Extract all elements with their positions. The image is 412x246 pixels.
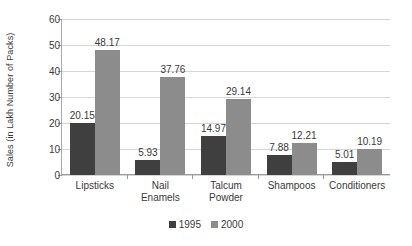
bar-value-label: 7.88 [269, 142, 288, 153]
bar-group-bars: 5.0110.19 [324, 19, 390, 175]
legend-item-2000[interactable]: 2000 [211, 219, 243, 230]
bar-value-label: 20.15 [70, 110, 95, 121]
x-category-label: Shampoos [259, 180, 325, 204]
legend-label: 1995 [179, 219, 201, 230]
bar-1995[interactable]: 7.88 [267, 155, 292, 175]
x-axis-category-labels: LipsticksNailEnamelsTalcumPowderShampoos… [62, 180, 390, 204]
plot-area: 0102030405060 20.1548.175.9337.7614.9729… [62, 19, 390, 175]
bar-1995[interactable]: 5.93 [135, 160, 160, 175]
bar-group-bars: 14.9729.14 [193, 19, 259, 175]
y-tick-label: 60 [20, 14, 60, 25]
x-category-label-line: Conditioners [324, 180, 390, 192]
bar-value-label: 48.17 [95, 37, 120, 48]
bar-group: 7.8812.21 [259, 19, 325, 175]
bar-group-bars: 5.9337.76 [128, 19, 194, 175]
bar-1995[interactable]: 14.97 [201, 136, 226, 175]
x-category-label-line: Lipsticks [62, 180, 128, 192]
bar-value-label: 10.19 [357, 136, 382, 147]
x-category-label: Lipsticks [62, 180, 128, 204]
y-tick-label: 20 [20, 118, 60, 129]
y-tick-label: 10 [20, 144, 60, 155]
y-tick-label: 50 [20, 40, 60, 51]
bar-group: 5.9337.76 [128, 19, 194, 175]
y-axis-title-text: Sales (in Lakh Number of Packs) [5, 33, 15, 168]
y-tick-label: 0 [20, 170, 60, 181]
bar-2000[interactable]: 10.19 [357, 149, 382, 175]
bar-group: 20.1548.17 [62, 19, 128, 175]
x-category-label-line: Powder [193, 192, 259, 204]
x-tick-mark [127, 175, 128, 179]
gridline [62, 175, 390, 176]
y-tick-label: 40 [20, 66, 60, 77]
bar-2000[interactable]: 29.14 [226, 99, 251, 175]
bar-2000[interactable]: 37.76 [160, 77, 185, 175]
bar-group: 5.0110.19 [324, 19, 390, 175]
legend-swatch-icon [169, 221, 176, 228]
x-tick-mark [192, 175, 193, 179]
bar-value-label: 37.76 [160, 64, 185, 75]
bar-1995[interactable]: 5.01 [332, 162, 357, 175]
x-category-label-line: Enamels [128, 192, 194, 204]
y-tick-label: 30 [20, 92, 60, 103]
chart-legend: 19952000 [0, 219, 412, 230]
bar-group-bars: 7.8812.21 [259, 19, 325, 175]
x-category-label-line: Nail [128, 180, 194, 192]
y-axis-title: Sales (in Lakh Number of Packs) [0, 0, 20, 200]
bar-group: 14.9729.14 [193, 19, 259, 175]
bar-value-label: 14.97 [201, 123, 226, 134]
x-tick-mark [323, 175, 324, 179]
bar-group-bars: 20.1548.17 [62, 19, 128, 175]
bar-chart: Sales (in Lakh Number of Packs) 01020304… [0, 0, 412, 246]
legend-swatch-icon [211, 221, 218, 228]
bar-groups: 20.1548.175.9337.7614.9729.147.8812.215.… [62, 19, 390, 175]
x-category-label: NailEnamels [128, 180, 194, 204]
x-category-label: TalcumPowder [193, 180, 259, 204]
x-category-label-line: Shampoos [259, 180, 325, 192]
x-tick-mark [258, 175, 259, 179]
bar-2000[interactable]: 48.17 [95, 50, 120, 175]
x-category-label-line: Talcum [193, 180, 259, 192]
legend-label: 2000 [221, 219, 243, 230]
bar-value-label: 5.01 [335, 149, 354, 160]
x-category-label: Conditioners [324, 180, 390, 204]
bar-1995[interactable]: 20.15 [70, 123, 95, 175]
bar-2000[interactable]: 12.21 [292, 143, 317, 175]
bar-value-label: 5.93 [138, 147, 157, 158]
legend-item-1995[interactable]: 1995 [169, 219, 201, 230]
bar-value-label: 12.21 [292, 130, 317, 141]
bar-value-label: 29.14 [226, 86, 251, 97]
